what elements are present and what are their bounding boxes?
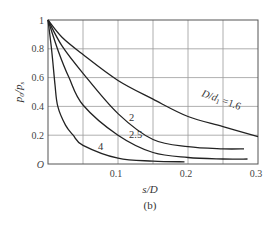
curve-4: [48, 20, 185, 162]
curve-label-2-5: 2.5: [129, 129, 142, 140]
figure-caption: (b): [144, 199, 157, 212]
x-tick-label: 0.2: [180, 168, 193, 179]
y-tick-label: 0.4: [32, 101, 45, 112]
curve-2-5: [48, 20, 248, 159]
y-tick-labels: O0.20.40.60.81: [32, 15, 45, 170]
y-tick-label: 0.2: [32, 130, 45, 141]
x-tick-labels: 0.10.20.3: [110, 168, 263, 179]
x-tick-label: 0.1: [110, 168, 123, 179]
y-tick-label: O: [37, 159, 44, 170]
curve-2: [48, 20, 244, 149]
curve-label-2: 2: [129, 112, 134, 123]
y-tick-label: 1: [39, 15, 44, 26]
y-tick-label: 0.6: [32, 72, 45, 83]
chart: O0.20.40.60.81 0.10.20.3 p0/ps s/D (b) D…: [0, 0, 276, 225]
y-tick-label: 0.8: [32, 43, 45, 54]
curve-label-1-6: D/d1 =1.6: [199, 87, 243, 114]
x-tick-label: 0.3: [250, 168, 263, 179]
curve-label-4: 4: [98, 141, 104, 152]
y-axis-label: p0/ps: [12, 82, 26, 104]
x-axis-label: s/D: [142, 183, 157, 195]
svg-text:D/d1 =1.6: D/d1 =1.6: [199, 87, 243, 114]
